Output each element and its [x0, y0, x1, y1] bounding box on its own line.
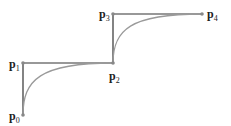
point-p1	[21, 61, 25, 65]
label-p1: p1	[9, 57, 20, 73]
point-p0	[21, 113, 25, 117]
label-p2: p2	[109, 69, 120, 85]
diagram-canvas: p0 p1 p2 p3 p4	[0, 0, 231, 126]
label-p0: p0	[9, 109, 20, 125]
point-p4	[200, 12, 204, 16]
point-p3	[111, 12, 115, 16]
point-p2	[111, 61, 115, 65]
curve-segment-2	[113, 14, 202, 63]
label-p4: p4	[207, 7, 218, 23]
label-p3: p3	[99, 7, 110, 23]
control-polygon-diagram: p0 p1 p2 p3 p4	[0, 0, 231, 126]
curve-segment-1	[23, 63, 113, 115]
